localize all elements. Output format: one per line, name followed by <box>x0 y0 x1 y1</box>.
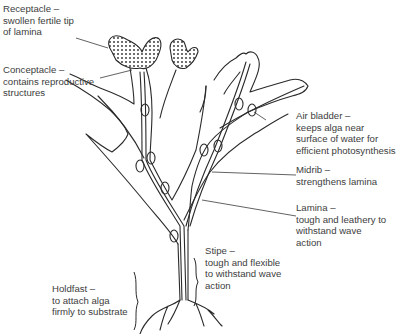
label-receptacle: Receptacle – swollen fertile tip of lami… <box>3 3 74 38</box>
receptacle-left <box>109 36 161 69</box>
label-lamina: Lamina – tough and leathery to withstand… <box>296 202 386 248</box>
label-conceptacle: Conceptacle – contains reproductive stru… <box>3 64 94 99</box>
label-stipe: Stipe – tough and flexible to withstand … <box>205 245 281 291</box>
receptacle-right <box>170 39 198 68</box>
label-midrib: Midrib – strengthens lamina <box>296 164 377 187</box>
label-air-bladder: Air bladder – keeps alga near surface of… <box>296 110 396 156</box>
label-holdfast: Holdfast – to attach alga firmly to subs… <box>52 283 128 318</box>
